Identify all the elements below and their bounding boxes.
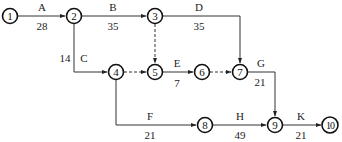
activity-e-duration: 7 [174, 77, 180, 89]
activity-f-arrow [116, 80, 196, 125]
svg-text:3: 3 [152, 10, 158, 22]
node-9: 9 [268, 118, 283, 133]
activity-c-name: C [80, 52, 87, 64]
activity-b-duration: 35 [108, 20, 120, 32]
activity-b-name: B [109, 1, 116, 13]
svg-text:5: 5 [152, 66, 158, 78]
node-4: 4 [109, 65, 124, 80]
svg-text:4: 4 [113, 66, 119, 78]
activity-c-duration: 14 [60, 52, 72, 64]
activity-e-name: E [174, 57, 181, 69]
activity-h-duration: 49 [235, 129, 247, 141]
activity-d-duration: 35 [194, 20, 206, 32]
node-3: 3 [148, 9, 163, 24]
svg-text:10: 10 [326, 120, 335, 131]
activity-c-arrow [74, 24, 107, 72]
activity-f-duration: 21 [145, 129, 156, 141]
svg-text:9: 9 [272, 119, 278, 131]
activity-a-duration: 28 [37, 20, 49, 32]
svg-text:8: 8 [202, 119, 208, 131]
activity-g-name: G [257, 57, 265, 69]
svg-text:2: 2 [71, 10, 77, 22]
node-7: 7 [233, 65, 248, 80]
activity-h-name: H [236, 110, 244, 122]
node-10: 10 [322, 117, 338, 133]
activity-d-name: D [195, 1, 203, 13]
svg-text:7: 7 [237, 66, 243, 78]
node-2: 2 [67, 9, 82, 24]
activity-k-name: K [297, 110, 305, 122]
svg-text:6: 6 [199, 66, 205, 78]
network-diagram: A 28 B 35 14 C D 35 E 7 F 21 G 21 H 49 K… [0, 0, 342, 142]
node-8: 8 [198, 118, 213, 133]
node-1: 1 [3, 9, 18, 24]
svg-text:1: 1 [7, 10, 13, 22]
activity-k-duration: 21 [296, 129, 307, 141]
activity-f-name: F [147, 110, 153, 122]
node-5: 5 [148, 65, 163, 80]
activity-a-name: A [38, 1, 46, 13]
activity-g-duration: 21 [255, 76, 266, 88]
node-6: 6 [195, 65, 210, 80]
